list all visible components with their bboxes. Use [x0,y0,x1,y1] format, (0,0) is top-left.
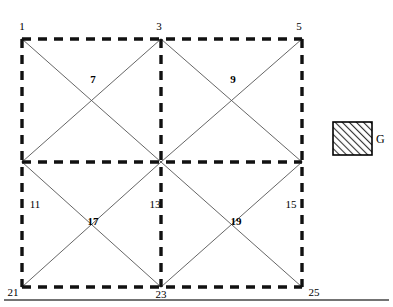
mesh-svg-canvas [0,0,393,307]
mesh-diagram-figure: 135791113151719212325 G [0,0,393,307]
legend-label-g: G [376,133,385,145]
legend-hatched-swatch [333,122,372,155]
legend-group [333,122,372,155]
